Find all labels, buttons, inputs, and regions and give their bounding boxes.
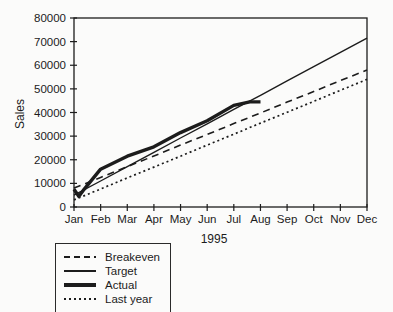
target-line-sample [64,270,96,272]
legend-label-last-year: Last year [105,292,152,306]
x-month-label: Dec [357,213,378,225]
x-month-label: Jun [198,213,217,225]
x-month-label: Sep [277,213,297,225]
y-tick-label: 40000 [34,107,66,119]
legend-label-breakeven: Breakeven [105,250,160,264]
y-tick-label: 10000 [34,177,66,189]
y-tick-label: 20000 [34,154,66,166]
y-tick-label: 0 [60,201,66,213]
y-axis-title: Sales [13,99,27,129]
x-month-label: Jan [65,213,84,225]
legend-label-target: Target [105,264,137,278]
chart-legend: Breakeven Target Actual Last year [55,243,171,312]
x-axis-title: 1995 [201,232,228,246]
series-line-actual [74,102,261,196]
y-tick-label: 70000 [34,36,66,48]
legend-item-breakeven: Breakeven [64,250,164,264]
sales-chart-page: 0100002000030000400005000060000700008000… [0,0,393,312]
y-tick-label: 30000 [34,130,66,142]
legend-label-actual: Actual [105,278,137,292]
breakeven-line-sample [64,256,96,258]
x-month-label: Mar [117,213,137,225]
y-tick-label: 50000 [34,83,66,95]
x-month-label: May [170,213,192,225]
y-tick-label: 80000 [34,12,66,24]
legend-item-target: Target [64,264,164,278]
x-month-label: Feb [91,213,111,225]
y-tick-label: 60000 [34,59,66,71]
series-line-breakeven [74,70,367,188]
last-year-line-sample [64,298,96,300]
legend-item-actual: Actual [64,278,164,292]
legend-item-last-year: Last year [64,292,164,306]
x-month-label: Jul [226,213,241,225]
actual-line-sample [64,283,96,287]
x-month-label: Nov [330,213,351,225]
x-month-label: Aug [250,213,270,225]
x-month-label: Oct [305,213,324,225]
series-line-last-year [74,79,367,199]
series-line-target [74,38,367,195]
x-month-label: Apr [145,213,163,225]
sales-line-chart: 0100002000030000400005000060000700008000… [0,0,393,250]
